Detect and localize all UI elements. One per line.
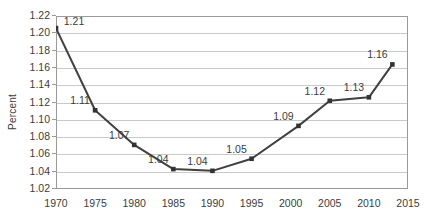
data-point-marker bbox=[171, 167, 176, 172]
data-point-label: 1.12 bbox=[298, 85, 332, 97]
y-axis-tick-label: 1.08 bbox=[10, 130, 50, 142]
y-axis-tick-label: 1.16 bbox=[10, 61, 50, 73]
data-point-marker bbox=[93, 108, 98, 113]
data-point-label: 1.05 bbox=[220, 143, 254, 155]
y-axis-tick-label: 1.20 bbox=[10, 26, 50, 38]
x-axis-tick-label: 2005 bbox=[308, 197, 352, 209]
data-point-label: 1.13 bbox=[337, 81, 371, 93]
x-axis-tick-label: 1995 bbox=[230, 197, 274, 209]
x-axis-tick-label: 2015 bbox=[386, 197, 430, 209]
data-point-label: 1.11 bbox=[63, 94, 97, 106]
y-axis-tick-label: 1.18 bbox=[10, 44, 50, 56]
data-point-marker bbox=[132, 143, 137, 148]
y-axis-tick-label: 1.14 bbox=[10, 78, 50, 90]
x-axis-tick-label: 1985 bbox=[151, 197, 195, 209]
data-point-marker bbox=[296, 124, 301, 129]
data-point-marker bbox=[210, 169, 215, 174]
y-axis-tick-label: 1.22 bbox=[10, 9, 50, 21]
y-axis-tick-label: 1.10 bbox=[10, 113, 50, 125]
data-point-label: 1.16 bbox=[360, 48, 394, 60]
line-chart: Percent 1.221.201.181.161.141.121.101.08… bbox=[0, 0, 430, 224]
x-axis-tick-label: 2000 bbox=[269, 197, 313, 209]
data-point-marker bbox=[327, 98, 332, 103]
data-point-marker bbox=[249, 156, 254, 161]
y-axis-tick-label: 1.04 bbox=[10, 165, 50, 177]
x-axis-tick-label: 2010 bbox=[347, 197, 391, 209]
x-axis-tick-label: 1970 bbox=[34, 197, 78, 209]
y-axis-tick-label: 1.06 bbox=[10, 147, 50, 159]
y-axis-tick-label: 1.02 bbox=[10, 182, 50, 194]
data-point-label: 1.21 bbox=[57, 15, 91, 27]
data-point-marker bbox=[390, 62, 395, 67]
y-axis-tick-label: 1.12 bbox=[10, 96, 50, 108]
data-point-label: 1.07 bbox=[102, 129, 136, 141]
x-axis-tick-label: 1980 bbox=[112, 197, 156, 209]
data-series bbox=[56, 16, 408, 189]
x-axis-tick-label: 1990 bbox=[190, 197, 234, 209]
data-point-marker bbox=[367, 95, 372, 100]
data-point-label: 1.04 bbox=[180, 155, 214, 167]
data-point-label: 1.09 bbox=[266, 110, 300, 122]
x-axis-tick-label: 1975 bbox=[73, 197, 117, 209]
data-point-label: 1.04 bbox=[141, 153, 175, 165]
